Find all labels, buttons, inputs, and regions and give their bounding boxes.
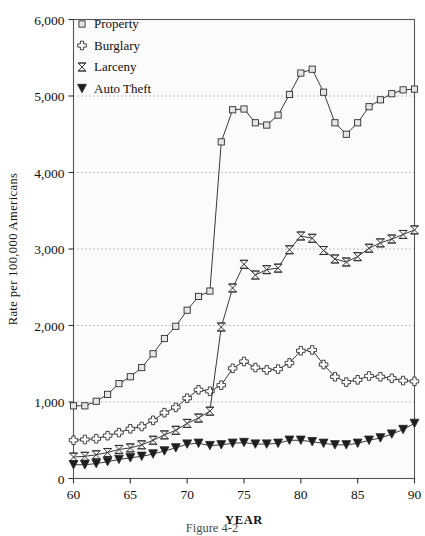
data-point (309, 66, 315, 72)
y-axis-title: Rate per 100,000 Americans (6, 173, 20, 326)
data-point (377, 97, 383, 103)
data-point (70, 403, 76, 409)
x-axis-ticks-group: 60657075808590 (67, 479, 422, 502)
data-point (127, 374, 133, 380)
data-point (252, 120, 258, 126)
y-tick-label-6000: 6,000 (34, 13, 65, 28)
data-point (218, 139, 224, 145)
data-point (366, 104, 372, 110)
x-tick-label-60: 60 (67, 487, 81, 502)
legend-label: Auto Theft (94, 81, 152, 96)
data-point (161, 335, 167, 341)
data-point (230, 107, 236, 113)
data-point (139, 364, 145, 370)
data-point (116, 381, 122, 387)
y-tick-label-1000: 1,000 (34, 395, 65, 410)
data-point (389, 91, 395, 97)
figure-caption: Figure 4-2 (186, 521, 238, 535)
data-point (400, 87, 406, 93)
legend-label: Larceny (94, 59, 137, 74)
data-point (93, 398, 99, 404)
data-point (275, 112, 281, 118)
legend-label: Property (94, 16, 139, 31)
x-tick-label-65: 65 (124, 487, 138, 502)
y-axis-ticks-group: 01,0002,0003,0004,0005,0006,000 (34, 13, 73, 487)
x-tick-label-80: 80 (294, 487, 308, 502)
x-tick-label-75: 75 (237, 487, 251, 502)
data-point (173, 323, 179, 329)
data-point (105, 391, 111, 397)
data-point (286, 91, 292, 97)
y-tick-label-2000: 2,000 (34, 319, 65, 334)
data-point (355, 120, 361, 126)
crime-rate-line-chart: 60657075808590 01,0002,0003,0004,0005,00… (0, 0, 425, 536)
legend-label: Burglary (94, 38, 140, 53)
data-point (241, 106, 247, 112)
y-tick-label-4000: 4,000 (34, 166, 65, 181)
data-point (207, 288, 213, 294)
data-point (320, 89, 326, 95)
x-tick-label-70: 70 (180, 487, 194, 502)
data-point (343, 131, 349, 137)
figure-container: 60657075808590 01,0002,0003,0004,0005,00… (0, 0, 425, 536)
data-point (184, 307, 190, 313)
data-point (298, 70, 304, 76)
x-tick-label-90: 90 (408, 487, 422, 502)
data-point (332, 120, 338, 126)
data-point (264, 122, 270, 128)
data-point (195, 293, 201, 299)
y-tick-label-5000: 5,000 (34, 89, 65, 104)
y-tick-label-0: 0 (58, 472, 65, 487)
data-point (411, 86, 417, 92)
data-point (82, 403, 88, 409)
y-tick-label-3000: 3,000 (34, 242, 65, 257)
data-point (150, 351, 156, 357)
legend-marker-square-icon (79, 21, 85, 27)
x-tick-label-85: 85 (351, 487, 365, 502)
